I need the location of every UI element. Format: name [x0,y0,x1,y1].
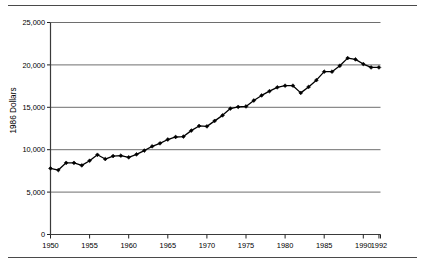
data-point-marker [174,135,178,139]
y-gridlines [51,23,381,235]
data-point-marker [111,154,115,158]
data-point-marker [119,154,123,158]
data-point-marker [283,84,287,88]
data-point-marker [377,66,381,70]
y-tick-label: 20,000 [22,61,45,70]
y-tick-label: 5,000 [27,188,46,197]
data-point-marker [236,105,240,109]
bottom-horizontal-rule [8,257,417,258]
data-point-marker [369,66,373,70]
x-tick-label: 1980 [277,241,293,250]
x-tick-label: 1965 [160,241,176,250]
x-tick-label: 1960 [120,241,136,250]
data-point-group [49,56,381,172]
tick-labels: 05,00010,00015,00020,00025,0001950195519… [9,18,387,249]
data-point-marker [127,155,131,159]
figure: 05,00010,00015,00020,00025,0001950195519… [0,0,425,265]
y-tick-label: 0 [41,230,45,239]
line-chart: 05,00010,00015,00020,00025,0001950195519… [0,0,425,265]
x-tick-label: 1992 [371,241,387,250]
x-tick-label: 1990 [355,241,371,250]
data-line-group [51,58,379,170]
data-point-marker [49,166,53,170]
y-axis-title: 1986 Dollars [9,88,18,134]
x-tick-label: 1970 [199,241,215,250]
x-tick-label: 1950 [42,241,58,250]
data-line [51,58,379,170]
x-tick-label: 1985 [316,241,332,250]
y-tick-label: 15,000 [22,103,45,112]
y-tick-label: 10,000 [22,145,45,154]
data-point-marker [72,161,76,165]
axes [47,23,381,239]
y-tick-label: 25,000 [22,18,45,27]
x-tick-label: 1955 [81,241,97,250]
x-tick-label: 1975 [238,241,254,250]
chart-plot-area: 05,00010,00015,00020,00025,0001950195519… [0,0,425,265]
